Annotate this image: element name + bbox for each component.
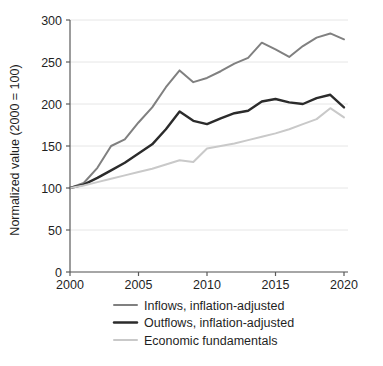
- series-line-0: [70, 33, 344, 188]
- x-tick-label: 2015: [262, 278, 290, 292]
- chart-figure: 20002005201020152020 050100150200250300 …: [0, 0, 383, 366]
- y-tick-label: 300: [41, 14, 62, 28]
- y-axis-title: Normalized value (2000 = 100): [8, 64, 22, 235]
- y-axis-tick-labels: 050100150200250300: [41, 14, 62, 280]
- y-tick-label: 200: [41, 98, 62, 112]
- x-tick-label: 2020: [330, 278, 358, 292]
- legend-label: Economic fundamentals: [144, 334, 277, 348]
- y-tick-label: 0: [55, 266, 62, 280]
- series-line-1: [70, 95, 344, 188]
- y-tick-label: 50: [48, 224, 62, 238]
- y-tick-label: 100: [41, 182, 62, 196]
- y-tick-label: 150: [41, 140, 62, 154]
- y-tick-label: 250: [41, 56, 62, 70]
- series-line-2: [70, 108, 344, 188]
- x-tick-label: 2010: [193, 278, 221, 292]
- legend-label: Inflows, inflation-adjusted: [144, 299, 284, 313]
- x-tick-label: 2000: [56, 278, 84, 292]
- legend-label: Outflows, inflation-adjusted: [144, 316, 294, 330]
- x-tick-label: 2005: [125, 278, 153, 292]
- series-lines: [70, 33, 344, 188]
- chart-legend: Inflows, inflation-adjustedOutflows, inf…: [114, 299, 294, 348]
- line-chart: 20002005201020152020 050100150200250300 …: [0, 0, 383, 366]
- x-axis-tick-labels: 20002005201020152020: [56, 278, 358, 292]
